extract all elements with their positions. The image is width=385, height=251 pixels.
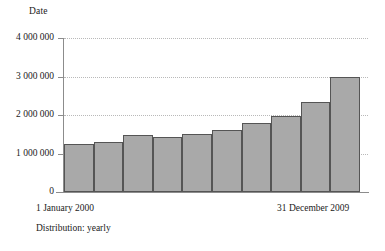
y-tick-label-0: 0 [49, 187, 54, 197]
distribution-caption: Distribution: yearly [36, 223, 111, 233]
bar-chart-figure: Date 4 000 000 3 000 000 2 000 000 1 000… [0, 0, 385, 251]
x-axis-line [56, 192, 369, 193]
table-row [301, 102, 331, 192]
table-row [212, 130, 242, 192]
y-tick-mark-0 [58, 192, 64, 193]
y-tick-label-4000000: 4 000 000 [16, 33, 54, 43]
y-tick-label-3000000: 3 000 000 [16, 72, 54, 82]
y-tick-label-2000000: 2 000 000 [16, 110, 54, 120]
table-row [123, 135, 153, 192]
x-axis-end-label: 31 December 2009 [277, 203, 349, 213]
y-axis-title: Date [29, 6, 48, 16]
table-row [242, 123, 272, 192]
y-tick-label-1000000: 1 000 000 [16, 149, 54, 159]
table-row [64, 144, 94, 192]
x-axis-start-label: 1 January 2000 [36, 203, 94, 213]
table-row [94, 142, 124, 192]
table-row [271, 116, 301, 192]
table-row [182, 134, 212, 192]
table-row [153, 137, 183, 192]
table-row [330, 77, 360, 193]
bar-series [64, 38, 360, 192]
